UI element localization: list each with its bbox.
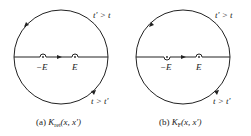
upper-label-b: t′ > t — [215, 10, 233, 20]
lower-label-a: t > t′ — [91, 96, 110, 106]
pole-right-a-icon — [74, 56, 76, 58]
upper-label-a: t′ > t — [93, 10, 111, 20]
pole-right-label-b: E — [195, 62, 202, 72]
caption-a: (a) Kret(x, x′) — [36, 117, 81, 128]
pole-right-label-a: E — [71, 62, 78, 72]
pole-left-label-a: −E — [36, 62, 48, 72]
pole-left-a-icon — [42, 56, 44, 58]
pole-left-label-b: −E — [160, 62, 172, 72]
pole-right-b-icon — [198, 56, 200, 58]
arrow-lower-b-icon — [214, 90, 219, 95]
contour-diagrams: t′ > t t > t′ −E E (a) Kret(x, x′) t′ > … — [0, 0, 251, 136]
real-axis-a — [14, 54, 108, 57]
arrow-axis-a-icon — [57, 55, 62, 59]
pole-left-b-icon — [166, 56, 168, 58]
caption-b: (b) KF(x, x′) — [159, 117, 202, 128]
arrow-upper-b-icon — [149, 22, 154, 27]
arrow-axis-b-icon — [181, 55, 186, 59]
lower-label-b: t > t′ — [213, 96, 232, 106]
